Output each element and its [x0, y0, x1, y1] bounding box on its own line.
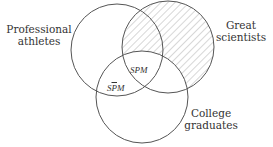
- label-college-graduates-line2: graduates: [178, 119, 244, 131]
- region-label-s-pbar-m: SPM: [107, 83, 125, 93]
- label-great-scientists-line1: Great: [212, 19, 270, 31]
- region-spbarm-m: M: [117, 83, 125, 93]
- region-spm-m: M: [140, 65, 148, 75]
- label-great-scientists-line2: scientists: [212, 31, 270, 43]
- label-professional-athletes-line1: Professional: [6, 23, 72, 35]
- label-professional-athletes-line2: athletes: [6, 35, 72, 47]
- venn-diagram: Professional athletes Great scientists C…: [0, 0, 273, 147]
- label-professional-athletes: Professional athletes: [6, 23, 72, 47]
- region-label-spm: SPM: [130, 65, 148, 75]
- label-college-graduates-line1: College: [178, 107, 244, 119]
- label-great-scientists: Great scientists: [212, 19, 270, 43]
- label-college-graduates: College graduates: [178, 107, 244, 131]
